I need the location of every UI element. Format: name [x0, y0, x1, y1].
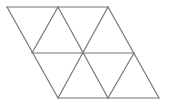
triangle-grid-diagram	[0, 0, 171, 106]
diagonal-up-3	[108, 53, 134, 98]
diagonal-up-1	[32, 7, 58, 53]
